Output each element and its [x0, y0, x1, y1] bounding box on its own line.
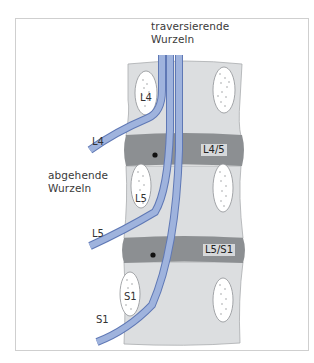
exiting-root-label-l4: L4: [92, 136, 104, 147]
lumbar-root-diagram: traversierende Wurzeln abgehende Wurzeln…: [0, 0, 314, 363]
disc-marker-l4-5: [152, 152, 157, 157]
traversing-roots-label-line1: traversierende: [151, 20, 229, 32]
vertebra-label-l5: L5: [135, 193, 147, 204]
pedicle-l4-right: [213, 67, 235, 113]
exiting-root-label-l5: L5: [92, 228, 104, 239]
vertebra-label-s1: S1: [124, 291, 137, 302]
traversing-roots-label-line2: Wurzeln: [151, 33, 194, 45]
disc-marker-l5-s1: [150, 252, 155, 257]
exiting-roots-label-line1: abgehende: [48, 169, 108, 181]
vertebra-label-l4: L4: [140, 92, 152, 103]
pedicle-l5-right: [213, 164, 233, 212]
exiting-root-label-s1: S1: [96, 314, 109, 325]
disc-label-l5-s1: L5/S1: [203, 244, 235, 256]
pedicle-s1-right: [213, 278, 233, 322]
exiting-roots-label-line2: Wurzeln: [48, 182, 91, 194]
disc-label-l4-5: L4/5: [201, 144, 227, 156]
